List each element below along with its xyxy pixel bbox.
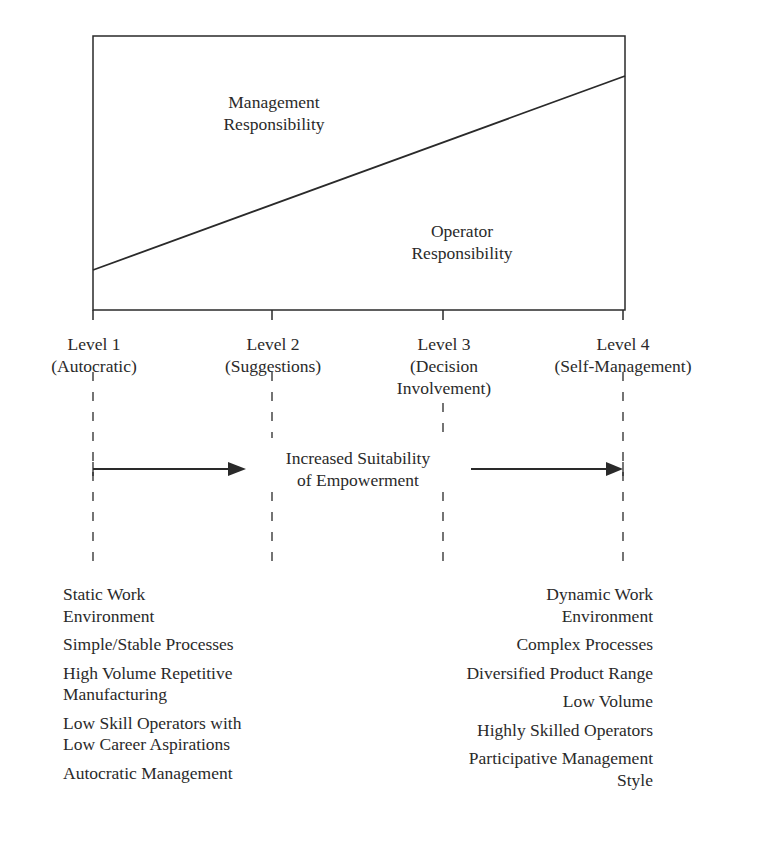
level-desc: (Decision Involvement): [397, 355, 491, 399]
list-item: Complex Processes: [466, 634, 653, 656]
list-item: Static Work Environment: [63, 584, 241, 627]
list-item: Participative Management Style: [466, 748, 653, 791]
list-item: Low Skill Operators with Low Career Aspi…: [63, 713, 241, 756]
level-name: Level 2: [225, 333, 321, 355]
level-3-label: Level 3 (Decision Involvement): [397, 333, 491, 399]
level-2-label: Level 2 (Suggestions): [225, 333, 321, 377]
level-desc: (Autocratic): [51, 355, 137, 377]
list-item: Simple/Stable Processes: [63, 634, 241, 656]
level-name: Level 1: [51, 333, 137, 355]
level-1-label: Level 1 (Autocratic): [51, 333, 137, 377]
list-item: Diversified Product Range: [466, 663, 653, 685]
level-ticks: [93, 310, 623, 320]
level-name: Level 3: [397, 333, 491, 355]
list-item: Highly Skilled Operators: [466, 720, 653, 742]
level-4-label: Level 4 (Self-Management): [554, 333, 691, 377]
arrowhead-icon: [228, 462, 246, 476]
increased-suitability-label: Increased Suitability of Empowerment: [286, 447, 430, 491]
arrowhead-icon: [606, 462, 623, 476]
left-characteristics-list: Static Work Environment Simple/Stable Pr…: [63, 584, 241, 791]
operator-responsibility-label: Operator Responsibility: [411, 220, 512, 264]
level-desc: (Suggestions): [225, 355, 321, 377]
list-item: Dynamic Work Environment: [466, 584, 653, 627]
responsibility-divider-line: [93, 76, 625, 270]
list-item: Low Volume: [466, 691, 653, 713]
level-desc: (Self-Management): [554, 355, 691, 377]
management-responsibility-label: Management Responsibility: [223, 91, 324, 135]
list-item: Autocratic Management: [63, 763, 241, 785]
right-characteristics-list: Dynamic Work Environment Complex Process…: [466, 584, 653, 798]
suitability-arrow-left: [93, 462, 246, 476]
list-item: High Volume Repetitive Manufacturing: [63, 663, 241, 706]
level-name: Level 4: [554, 333, 691, 355]
suitability-arrow-right: [471, 462, 623, 476]
